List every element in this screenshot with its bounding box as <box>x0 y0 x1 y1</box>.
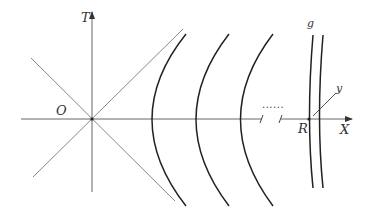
label-r: R <box>297 121 308 136</box>
hyperbola-2 <box>196 34 229 206</box>
hyperbola-1 <box>152 34 186 206</box>
label-g: g <box>307 17 314 30</box>
ellipsis: ...... <box>262 99 284 110</box>
hyperbolae <box>152 34 273 206</box>
hyperbola-3 <box>241 34 274 206</box>
light-cone <box>31 29 183 201</box>
light-cone-line-past <box>31 58 175 201</box>
worldline-left <box>310 35 314 188</box>
label-x: X <box>339 122 350 137</box>
worldline-right <box>320 35 324 188</box>
point-r <box>307 117 310 120</box>
spacetime-diagram: T O X R g y ...... <box>0 0 372 220</box>
label-t: T <box>81 10 91 25</box>
worldlines-g <box>310 35 324 188</box>
y-coordinate-line <box>313 93 336 116</box>
label-y: y <box>335 82 343 95</box>
label-o: O <box>56 103 67 118</box>
origin-point <box>90 117 93 120</box>
